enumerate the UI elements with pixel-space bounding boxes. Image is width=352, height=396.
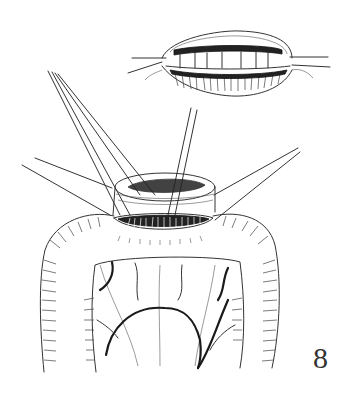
opened-lumen — [114, 214, 213, 230]
everted-cuff — [113, 173, 215, 215]
mesentery — [97, 262, 235, 368]
figure-number: 8 — [313, 343, 328, 373]
surgical-illustration — [0, 0, 352, 396]
main-illustration — [22, 71, 300, 372]
inset-detail — [128, 31, 330, 96]
